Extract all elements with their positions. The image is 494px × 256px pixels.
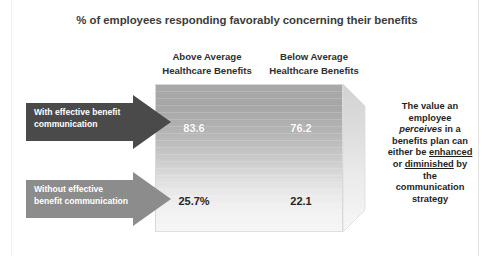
chart-side-face-3d — [343, 84, 371, 232]
value-above-average-without-communication: 25.7% — [162, 195, 226, 207]
side-note-line7: the — [423, 171, 437, 181]
column-header-below-line1: Below Average — [259, 50, 369, 64]
side-note-line2: employee — [409, 113, 452, 123]
slide-canvas: % of employees responding favorably conc… — [0, 0, 494, 256]
side-note-line3-rest: in a — [442, 124, 461, 134]
value-above-average-with-communication: 83.6 — [162, 122, 226, 134]
arrow-1-line2: communication — [34, 119, 154, 131]
chart-front-face: 83.6 76.2 25.7% 22.1 — [155, 84, 343, 232]
side-note-line8: communication — [396, 182, 465, 192]
legend-arrow-without-effective-communication-label: Without effective benefit communication — [34, 184, 154, 207]
side-note-line6-post: by — [454, 159, 467, 169]
value-below-average-without-communication: 22.1 — [269, 195, 333, 207]
column-header-below-line2: Healthcare Benefits — [259, 64, 369, 78]
arrow-2-line2: benefit communication — [34, 196, 154, 208]
column-header-above-average: Above Average Healthcare Benefits — [152, 50, 262, 77]
side-note-line9: strategy — [412, 194, 448, 204]
side-note-line5-pre: either be — [388, 147, 429, 157]
side-note-diminished-underline: diminished — [405, 159, 454, 169]
legend-arrow-with-effective-communication[interactable]: With effective benefit communication — [26, 95, 171, 149]
side-annotation-text: The value an employee perceives in a ben… — [374, 101, 486, 205]
arrow-1-line1: With effective benefit — [34, 107, 154, 119]
side-note-line1: The value an — [402, 101, 458, 111]
legend-arrow-with-effective-communication-label: With effective benefit communication — [34, 107, 154, 130]
arrow-2-line1: Without effective — [34, 184, 154, 196]
legend-arrow-without-effective-communication[interactable]: Without effective benefit communication — [26, 172, 171, 226]
value-below-average-with-communication: 76.2 — [269, 122, 333, 134]
frame-edge-left — [11, 0, 12, 256]
chart-block: 83.6 76.2 25.7% 22.1 — [155, 84, 370, 234]
side-note-enhanced-underline: enhanced — [429, 147, 472, 157]
page-title: % of employees responding favorably conc… — [0, 14, 494, 26]
column-header-above-line1: Above Average — [152, 50, 262, 64]
chart-face-banding — [156, 85, 344, 233]
column-header-above-line2: Healthcare Benefits — [152, 64, 262, 78]
side-note-line6-pre: or — [393, 159, 405, 169]
column-header-below-average: Below Average Healthcare Benefits — [259, 50, 369, 77]
side-note-line4: benefits plan can — [392, 136, 468, 146]
side-note-perceives-italic: perceives — [399, 124, 442, 134]
